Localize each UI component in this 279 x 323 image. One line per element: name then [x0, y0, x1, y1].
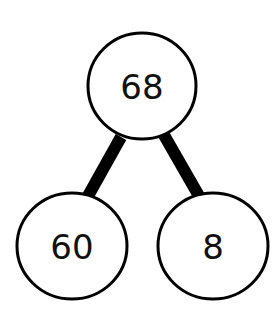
- part-label-left: 60: [50, 227, 93, 267]
- whole-label: 68: [120, 67, 163, 107]
- part-node-right: 8: [158, 193, 268, 299]
- connector-left: [88, 137, 121, 196]
- part-label-right: 8: [202, 227, 224, 267]
- whole-node: 68: [88, 33, 196, 139]
- part-node-left: 60: [17, 193, 127, 299]
- number-bond-diagram: 68 60 8: [0, 0, 279, 323]
- connector-right: [164, 135, 199, 196]
